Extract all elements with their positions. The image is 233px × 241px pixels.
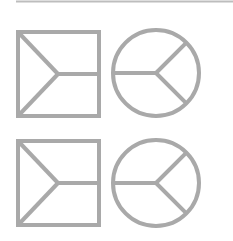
square-split-icon: [18, 32, 99, 116]
circle-branch-lower: [156, 73, 186, 103]
square-branch-upper: [18, 32, 58, 74]
row-1: [18, 30, 199, 116]
square-branch-lower: [18, 183, 58, 225]
square-branch-upper: [18, 141, 58, 183]
circle-branch-upper: [156, 43, 186, 73]
square-branch-lower: [18, 74, 58, 116]
circle-split-icon: [113, 140, 199, 226]
row-2: [18, 140, 199, 226]
diagram-figure: [0, 0, 233, 241]
square-split-icon: [18, 141, 99, 225]
circle-branch-upper: [156, 153, 186, 183]
circle-branch-lower: [156, 183, 186, 213]
circle-split-icon: [113, 30, 199, 116]
